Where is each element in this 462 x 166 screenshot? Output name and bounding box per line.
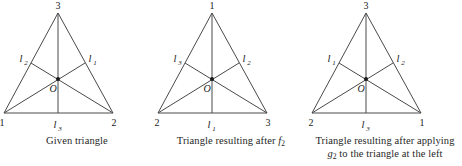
axis-label-left-subscript: 3 xyxy=(177,59,182,67)
vertex-label-bottom-left: 2 xyxy=(155,117,160,128)
vertex-label-apex: 3 xyxy=(364,0,369,11)
centroid-dot xyxy=(210,77,214,81)
axis-label-right-subscript: 1 xyxy=(93,59,97,67)
axis-label-bottom-subscript: 3 xyxy=(57,125,62,133)
caption-text-subscript: 2 xyxy=(281,139,285,148)
vertex-label-bottom-right: 3 xyxy=(266,117,271,128)
centroid-label: O xyxy=(203,83,210,94)
caption-text-subscript: 2 xyxy=(333,152,337,161)
vertex-label-apex: 1 xyxy=(210,0,215,11)
axis-label-left: l xyxy=(174,53,177,64)
vertex-label-bottom-right: 1 xyxy=(420,117,425,128)
centroid-label: O xyxy=(357,83,364,94)
axis-label-bottom: l xyxy=(54,119,57,130)
axis-label-left-subscript: 1 xyxy=(332,59,336,67)
centroid-dot xyxy=(364,77,368,81)
axis-label-left-subscript: 2 xyxy=(24,59,28,67)
caption-text-post: to the triangle at the left xyxy=(337,148,443,159)
axis-label-right-subscript: 2 xyxy=(401,59,405,67)
vertex-label-apex: 3 xyxy=(56,0,61,11)
caption-line-2: g2 to the triangle at the left xyxy=(308,147,462,161)
centroid-label: O xyxy=(49,83,56,94)
caption-text-italic: g xyxy=(327,148,332,159)
caption-line-1: Triangle resulting after applying xyxy=(308,134,462,147)
axis-label-right: l xyxy=(397,53,400,64)
axis-label-right-subscript: 2 xyxy=(247,59,251,67)
panel-triangle-after-g2: 3 2 1 l 1 l 2 l 3 O Triangle resulting a… xyxy=(308,0,462,166)
three-triangles-figure: 3 1 2 l 2 l 1 l 3 O Given triangle xyxy=(0,0,462,166)
panel-triangle-after-f2: 1 2 3 l 3 l 2 l 1 O Triangle resulting a… xyxy=(154,0,308,166)
axis-label-right: l xyxy=(243,53,246,64)
triangle-diagram-1: 3 1 2 l 2 l 1 l 3 O xyxy=(0,0,154,133)
caption-line-1: Given triangle xyxy=(0,134,154,148)
triangle-diagram-3: 3 2 1 l 1 l 2 l 3 O xyxy=(308,0,462,133)
caption-text-pre: Triangle resulting after applying xyxy=(315,135,454,146)
axis-label-bottom: l xyxy=(362,119,365,130)
axis-label-bottom-subscript: 3 xyxy=(365,125,370,133)
caption-given-triangle: Given triangle xyxy=(0,134,154,148)
caption-line-1: Triangle resulting after f2 xyxy=(154,134,308,148)
caption-text-pre: Triangle resulting after xyxy=(177,135,279,146)
caption-text-pre: Given triangle xyxy=(46,135,108,146)
axis-label-bottom-subscript: 1 xyxy=(212,125,216,133)
axis-label-right: l xyxy=(89,53,92,64)
centroid-dot xyxy=(56,77,60,81)
triangle-diagram-2: 1 2 3 l 3 l 2 l 1 O xyxy=(154,0,308,133)
panel-given-triangle: 3 1 2 l 2 l 1 l 3 O Given triangle xyxy=(0,0,154,166)
vertex-label-bottom-right: 2 xyxy=(112,117,117,128)
caption-triangle-after-g2: Triangle resulting after applying g2 to … xyxy=(308,134,462,161)
axis-label-left: l xyxy=(20,53,23,64)
vertex-label-bottom-left: 1 xyxy=(0,117,5,128)
vertex-label-bottom-left: 2 xyxy=(309,117,314,128)
axis-label-left: l xyxy=(328,53,331,64)
axis-label-bottom: l xyxy=(208,119,211,130)
caption-triangle-after-f2: Triangle resulting after f2 xyxy=(154,134,308,148)
